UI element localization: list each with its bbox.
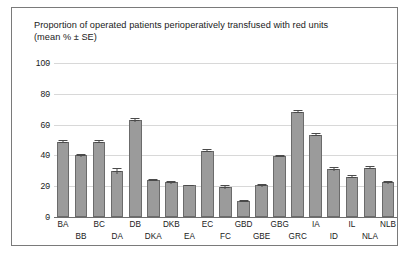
- plot-area: [54, 63, 397, 217]
- x-tick-label-EC: EC: [202, 220, 213, 229]
- y-tick-mark-40: [47, 155, 50, 156]
- bar-slot: [57, 63, 70, 217]
- error-bar-cap-bottom: [383, 182, 392, 183]
- error-bar-cap-bottom: [149, 180, 158, 181]
- y-tick-label-40: 40: [10, 150, 50, 160]
- error-bar-cap-bottom: [185, 185, 194, 186]
- y-tick-mark-20: [47, 186, 50, 187]
- bar: [364, 168, 377, 217]
- bar-slot: [201, 63, 214, 217]
- x-tick-label-DB: DB: [130, 220, 141, 229]
- bar-series: [54, 63, 397, 217]
- y-tick-mark-60: [47, 125, 50, 126]
- x-tick-label-DKB: DKB: [163, 220, 180, 229]
- y-tick-label-100: 100: [10, 58, 50, 68]
- x-tick-label-FC: FC: [220, 232, 231, 241]
- bar-slot: [364, 63, 377, 217]
- error-bar-cap-bottom: [203, 151, 212, 152]
- error-bar-cap-top: [95, 140, 104, 141]
- bar: [93, 142, 106, 217]
- error-bar-cap-bottom: [59, 142, 68, 143]
- bar: [291, 112, 304, 217]
- x-tick-label-DKA: DKA: [145, 232, 162, 241]
- bar: [327, 169, 340, 217]
- y-tick-label-60: 60: [10, 120, 50, 130]
- y-tick-label-80: 80: [10, 89, 50, 99]
- chart-title: Proportion of operated patients perioper…: [34, 19, 379, 43]
- y-axis-labels: 020406080100: [8, 63, 50, 217]
- bar: [309, 135, 322, 217]
- x-tick-label-BA: BA: [58, 220, 69, 229]
- x-tick-label-GBD: GBD: [235, 220, 253, 229]
- error-bar-cap-bottom: [77, 155, 86, 156]
- bar: [111, 171, 124, 217]
- x-tick-label-NLA: NLA: [362, 232, 378, 241]
- error-bar-cap-bottom: [221, 187, 230, 188]
- x-tick-label-BC: BC: [93, 220, 104, 229]
- error-bar-cap-bottom: [167, 182, 176, 183]
- bar-slot: [237, 63, 250, 217]
- x-axis-labels: BABBBCDADBDKADKBEAECFCGBDGBEGBGGRCIAIDIL…: [54, 218, 397, 248]
- error-bar-cap-bottom: [329, 169, 338, 170]
- y-tick-mark-80: [47, 94, 50, 95]
- y-tick-label-0: 0: [10, 212, 50, 222]
- x-tick-label-BB: BB: [76, 232, 87, 241]
- bar-slot: [183, 63, 196, 217]
- bar-slot: [382, 63, 395, 217]
- bar: [165, 182, 178, 217]
- bar-slot: [273, 63, 286, 217]
- bar-slot: [255, 63, 268, 217]
- x-tick-label-EA: EA: [184, 232, 195, 241]
- x-tick-label-ID: ID: [330, 232, 338, 241]
- error-bar-cap-bottom: [293, 112, 302, 113]
- bar-slot: [291, 63, 304, 217]
- bar-slot: [111, 63, 124, 217]
- error-bar-cap-top: [113, 168, 122, 169]
- y-tick-mark-100: [47, 63, 50, 64]
- bar: [346, 177, 359, 217]
- bar-slot: [129, 63, 142, 217]
- error-bar-cap-bottom: [131, 120, 140, 121]
- error-bar-cap-bottom: [347, 177, 356, 178]
- error-bar-cap-bottom: [95, 142, 104, 143]
- bar-slot: [75, 63, 88, 217]
- bar: [75, 155, 88, 217]
- bar-slot: [219, 63, 232, 217]
- error-bar-cap-bottom: [311, 135, 320, 136]
- bar-slot: [309, 63, 322, 217]
- error-bar-cap-top: [329, 167, 338, 168]
- bar-slot: [147, 63, 160, 217]
- bar-slot: [327, 63, 340, 217]
- error-bar-cap-bottom: [275, 156, 284, 157]
- bar: [382, 182, 395, 217]
- bar: [129, 120, 142, 217]
- bar-slot: [93, 63, 106, 217]
- x-tick-label-GRC: GRC: [289, 232, 307, 241]
- error-bar-cap-bottom: [113, 171, 122, 172]
- y-tick-mark-0: [47, 217, 50, 218]
- bar: [147, 180, 160, 217]
- bar: [273, 156, 286, 217]
- bar-slot: [165, 63, 178, 217]
- x-tick-label-GBE: GBE: [253, 232, 270, 241]
- bar: [57, 142, 70, 217]
- error-bar-cap-top: [59, 140, 68, 141]
- y-tick-label-20: 20: [10, 181, 50, 191]
- x-tick-label-IL: IL: [348, 220, 355, 229]
- x-tick-label-IA: IA: [312, 220, 320, 229]
- bar: [255, 185, 268, 217]
- bar: [201, 151, 214, 217]
- error-bar-cap-bottom: [257, 185, 266, 186]
- x-tick-label-GBG: GBG: [271, 220, 289, 229]
- bar: [183, 185, 196, 217]
- x-tick-label-NLB: NLB: [380, 220, 396, 229]
- error-bar-cap-bottom: [239, 201, 248, 202]
- bar-slot: [346, 63, 359, 217]
- chart-figure: Proportion of operated patients perioper…: [11, 7, 398, 246]
- bar: [237, 201, 250, 217]
- x-tick-label-DA: DA: [111, 232, 122, 241]
- error-bar-cap-bottom: [365, 168, 374, 169]
- bar: [219, 187, 232, 217]
